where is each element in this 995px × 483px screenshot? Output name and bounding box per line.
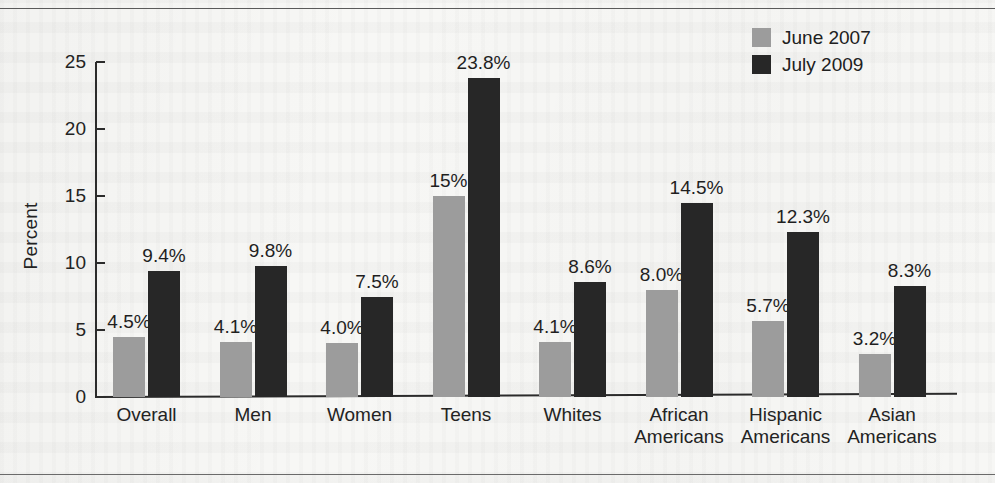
bar-value-label: 12.3% [768, 207, 838, 226]
bar [894, 286, 926, 397]
bar [859, 354, 891, 397]
y-axis-tick-label: 15 [44, 186, 86, 205]
legend-swatch-icon-july [752, 55, 771, 74]
y-axis-line [95, 62, 97, 398]
bar [326, 343, 358, 397]
bar-value-label: 8.3% [875, 261, 945, 280]
bar [113, 337, 145, 397]
bar-value-label: 8.6% [555, 257, 625, 276]
y-axis-tick-label: 5 [44, 320, 86, 339]
y-axis-tick-label: 10 [44, 253, 86, 272]
bar [787, 232, 819, 397]
legend-item-june[interactable]: June 2007 [752, 24, 871, 51]
bar [574, 282, 606, 397]
bar-value-label: 14.5% [662, 178, 732, 197]
y-axis-tick-label-wrap: 5 [28, 320, 86, 339]
legend-item-july[interactable]: July 2009 [752, 51, 871, 78]
legend-label-july: July 2009 [782, 55, 863, 74]
bar-value-label: 9.8% [236, 241, 306, 260]
bar [681, 203, 713, 397]
y-axis-label: Percent [20, 181, 42, 291]
bar [752, 321, 784, 397]
bar-value-label: 7.5% [342, 272, 412, 291]
y-axis-tick-label-wrap: 25 [28, 52, 86, 71]
y-axis-tick-label: 20 [44, 119, 86, 138]
bar [255, 266, 287, 397]
bar [361, 297, 393, 398]
scanned-page: 2520151050 Percent 4.5%9.4%4.1%9.8%4.0%7… [0, 0, 995, 483]
bar [646, 290, 678, 397]
bar [468, 78, 500, 397]
bar-value-label: 23.8% [449, 53, 519, 72]
legend-label-june: June 2007 [782, 28, 871, 47]
bar [539, 342, 571, 397]
y-axis-tick [96, 195, 105, 197]
y-axis-tick-label-wrap: 0 [28, 387, 86, 406]
bar-value-label: 9.4% [129, 246, 199, 265]
bar [220, 342, 252, 397]
y-axis-tick [96, 61, 105, 63]
y-axis-tick [96, 396, 105, 398]
bar [433, 196, 465, 397]
y-axis-tick [96, 128, 105, 130]
y-axis-tick [96, 262, 105, 264]
bar-chart: 2520151050 Percent 4.5%9.4%4.1%9.8%4.0%7… [0, 0, 995, 483]
y-axis-tick-label: 0 [44, 387, 86, 406]
y-axis-tick-label-wrap: 20 [28, 119, 86, 138]
x-axis-category-label: Asian Americans [827, 404, 957, 448]
y-axis-tick-label: 25 [44, 52, 86, 71]
chart-legend: June 2007 July 2009 [752, 24, 871, 78]
legend-swatch-icon-june [752, 28, 771, 47]
bar [148, 271, 180, 397]
